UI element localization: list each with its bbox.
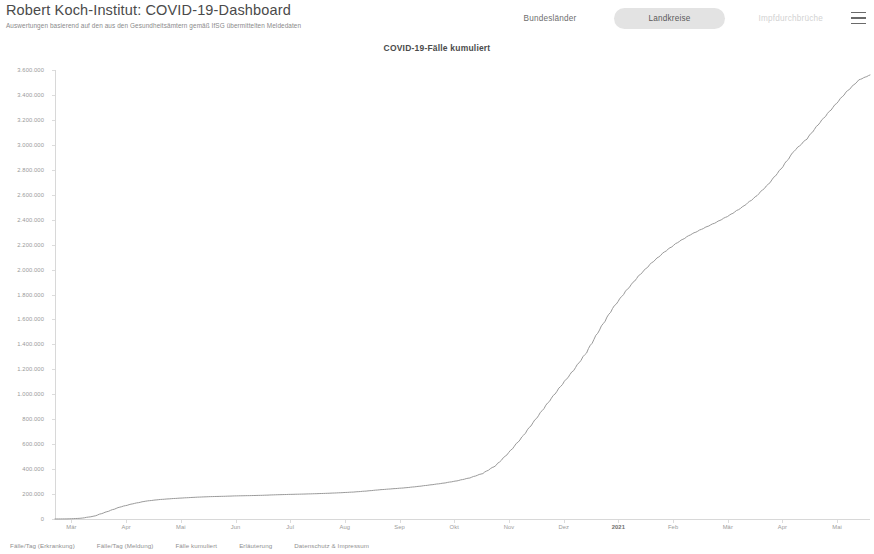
- footer-link[interactable]: Fälle/Tag (Erkrankung): [10, 542, 75, 549]
- brand-block: Robert Koch-Institut: COVID-19-Dashboard…: [6, 2, 301, 30]
- footer-link[interactable]: Erläuterung: [239, 542, 272, 549]
- footer-links: Fälle/Tag (Erkrankung)Fälle/Tag (Meldung…: [0, 536, 874, 554]
- hamburger-bar: [851, 17, 866, 18]
- footer-link[interactable]: Fälle/Tag (Meldung): [97, 542, 154, 549]
- page-subtitle: Auswertungen basierend auf den aus den G…: [6, 21, 301, 30]
- app-header: Robert Koch-Institut: COVID-19-Dashboard…: [0, 0, 874, 38]
- top-navigation: Bundesländer Landkreise Impfdurchbrüche: [524, 6, 866, 30]
- series-line-faelle-kumuliert: [55, 75, 870, 519]
- footer-link[interactable]: Fälle kumuliert: [175, 542, 217, 549]
- nav-item-bundeslaender[interactable]: Bundesländer: [524, 14, 577, 23]
- footer-link[interactable]: Datenschutz & Impressum: [294, 542, 369, 549]
- cumulative-cases-line: [0, 38, 874, 536]
- chart-panel: COVID-19-Fälle kumuliert 3.600.0003.400.…: [0, 38, 874, 536]
- page-title: Robert Koch-Institut: COVID-19-Dashboard: [6, 2, 301, 19]
- nav-item-impfdurchbrueche[interactable]: Impfdurchbrüche: [759, 14, 823, 23]
- nav-item-landkreise[interactable]: Landkreise: [614, 8, 724, 29]
- hamburger-bar: [851, 12, 866, 13]
- hamburger-bar: [851, 23, 866, 24]
- hamburger-menu-icon[interactable]: [851, 12, 866, 24]
- plot-area: 3.600.0003.400.0003.200.0003.000.0002.80…: [0, 38, 874, 536]
